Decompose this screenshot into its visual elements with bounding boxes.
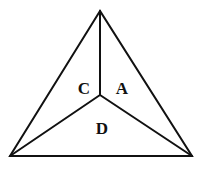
region-label-a: A — [116, 79, 129, 98]
triangle-diagram: C A D — [0, 0, 204, 169]
edge-center-to-bottom-left — [10, 95, 100, 156]
edge-center-to-bottom-right — [100, 95, 192, 156]
region-label-c: C — [78, 79, 90, 98]
region-label-d: D — [96, 119, 108, 138]
